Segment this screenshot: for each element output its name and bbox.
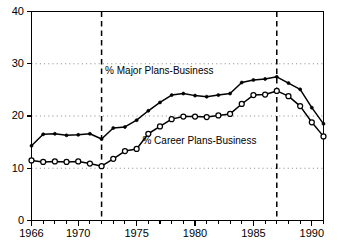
data-point: [275, 75, 278, 78]
data-point: [310, 106, 313, 109]
data-point: [252, 78, 255, 81]
data-point: [204, 115, 209, 120]
annotation-label-1: % Major Plans-Business: [105, 65, 213, 76]
data-point: [29, 158, 34, 163]
data-point: [111, 156, 116, 161]
chart-container: 010203040 196619701975198019851990 % Maj…: [0, 0, 338, 246]
data-point: [122, 149, 127, 154]
data-point: [299, 88, 302, 91]
data-point: [181, 114, 186, 119]
data-point: [52, 159, 57, 164]
annotation-label-2: % Career Plans-Business: [142, 135, 256, 146]
x-tick-label-1990: 1990: [300, 227, 324, 239]
data-point: [123, 125, 126, 128]
data-point: [112, 127, 115, 130]
data-point: [65, 134, 68, 137]
data-point: [322, 122, 325, 125]
data-point: [240, 81, 243, 84]
data-point: [64, 159, 69, 164]
data-point: [229, 92, 232, 95]
data-point: [217, 94, 220, 97]
data-point: [182, 92, 185, 95]
data-point: [77, 133, 80, 136]
data-point: [193, 114, 198, 119]
data-point: [169, 117, 174, 122]
data-point: [87, 161, 92, 166]
data-point: [135, 119, 138, 122]
y-tick-label-40: 40: [12, 5, 24, 17]
x-tick-label-1975: 1975: [124, 227, 148, 239]
chart-background: [0, 0, 338, 246]
x-tick-label-1970: 1970: [66, 227, 90, 239]
y-tick-label-0: 0: [18, 214, 24, 226]
x-tick-label-1985: 1985: [241, 227, 265, 239]
x-tick-label-1966: 1966: [19, 227, 43, 239]
data-point: [298, 104, 303, 109]
data-point: [216, 113, 221, 118]
data-point: [287, 82, 290, 85]
line-chart: 010203040 196619701975198019851990 % Maj…: [0, 0, 338, 246]
data-point: [228, 111, 233, 116]
data-point: [100, 137, 103, 140]
data-point: [41, 159, 46, 164]
data-point: [274, 88, 279, 93]
y-tick-label-10: 10: [12, 162, 24, 174]
data-point: [194, 94, 197, 97]
data-point: [170, 94, 173, 97]
data-point: [239, 101, 244, 106]
data-point: [53, 132, 56, 135]
data-point: [286, 94, 291, 99]
y-tick-label-30: 30: [12, 57, 24, 69]
data-point: [99, 164, 104, 169]
data-point: [42, 133, 45, 136]
x-tick-label-1980: 1980: [183, 227, 207, 239]
y-tick-label-20: 20: [12, 109, 24, 121]
data-point: [88, 132, 91, 135]
data-point: [158, 101, 161, 104]
data-point: [147, 109, 150, 112]
data-point: [264, 77, 267, 80]
data-point: [321, 134, 326, 139]
data-point: [134, 146, 139, 151]
data-point: [30, 144, 33, 147]
data-point: [205, 95, 208, 98]
data-point: [76, 159, 81, 164]
data-point: [251, 93, 256, 98]
data-point: [309, 120, 314, 125]
data-point: [263, 92, 268, 97]
data-point: [157, 124, 162, 129]
